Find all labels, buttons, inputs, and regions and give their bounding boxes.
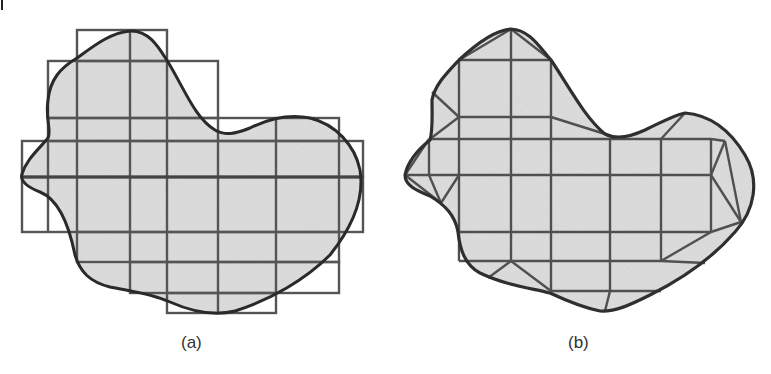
caption-a: (a) xyxy=(181,333,202,353)
diagram-canvas xyxy=(0,0,771,374)
panel-b xyxy=(405,29,754,311)
region-b-fill xyxy=(405,29,754,311)
panel-a xyxy=(22,30,363,313)
caption-b: (b) xyxy=(568,333,589,353)
